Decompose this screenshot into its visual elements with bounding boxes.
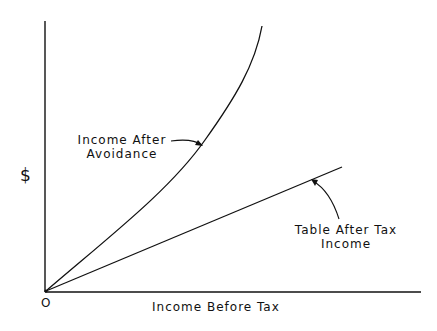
diagram-svg <box>0 0 437 331</box>
x-axis-label: Income Before Tax <box>152 300 280 314</box>
income-after-avoidance-label: Income After Avoidance <box>74 133 170 161</box>
table-after-tax-income-label-line2: Income <box>290 237 402 251</box>
income-after-avoidance-label-line1: Income After <box>74 133 170 147</box>
diagram-canvas: $ O Income Before Tax Income After Avoid… <box>0 0 437 331</box>
table-after-tax-income-label-line1: Table After Tax <box>290 223 402 237</box>
table-leader-arrow <box>313 181 339 219</box>
origin-dot <box>44 289 47 292</box>
avoidance-arrowhead-icon <box>195 140 203 146</box>
income-after-avoidance-label-line2: Avoidance <box>74 147 170 161</box>
y-axis-label: $ <box>20 168 32 182</box>
table-after-tax-income-label: Table After Tax Income <box>290 223 402 251</box>
table-arrowhead-icon <box>311 179 318 186</box>
origin-label: O <box>41 296 51 310</box>
